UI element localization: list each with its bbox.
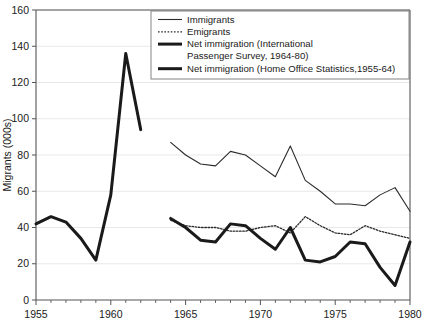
y-tick-label: 160 xyxy=(11,4,29,16)
migration-line-chart: 020406080100120140160 195519601965197019… xyxy=(0,0,424,335)
y-tick-label: 60 xyxy=(17,185,29,197)
x-tick-label: 1975 xyxy=(324,308,348,320)
y-tick-label: 100 xyxy=(11,112,29,124)
chart-svg: 020406080100120140160 195519601965197019… xyxy=(0,0,424,335)
x-tick-label: 1970 xyxy=(249,308,273,320)
y-tick-label: 40 xyxy=(17,221,29,233)
y-tick-label: 140 xyxy=(11,40,29,52)
x-tick-label: 1980 xyxy=(398,308,422,320)
y-tick-label: 120 xyxy=(11,76,29,88)
y-tick-label: 20 xyxy=(17,257,29,269)
legend-label-4: Net immigration (Home Office Statistics,… xyxy=(187,63,395,74)
legend-label-0: Immigrants xyxy=(187,14,235,25)
legend-label-3: Passenger Survey, 1964-80) xyxy=(187,50,308,61)
y-tick-label: 80 xyxy=(17,149,29,161)
y-tick-label: 0 xyxy=(23,294,29,306)
x-tick-label: 1965 xyxy=(174,308,198,320)
chart-legend: ImmigrantsEmigrantsNet immigration (Inte… xyxy=(151,11,409,79)
legend-label-1: Emigrants xyxy=(187,26,230,37)
x-tick-label: 1960 xyxy=(99,308,123,320)
x-tick-label: 1955 xyxy=(24,308,48,320)
legend-label-2: Net immigration (International xyxy=(187,38,313,49)
y-axis-title: Migrants (000s) xyxy=(1,119,13,192)
